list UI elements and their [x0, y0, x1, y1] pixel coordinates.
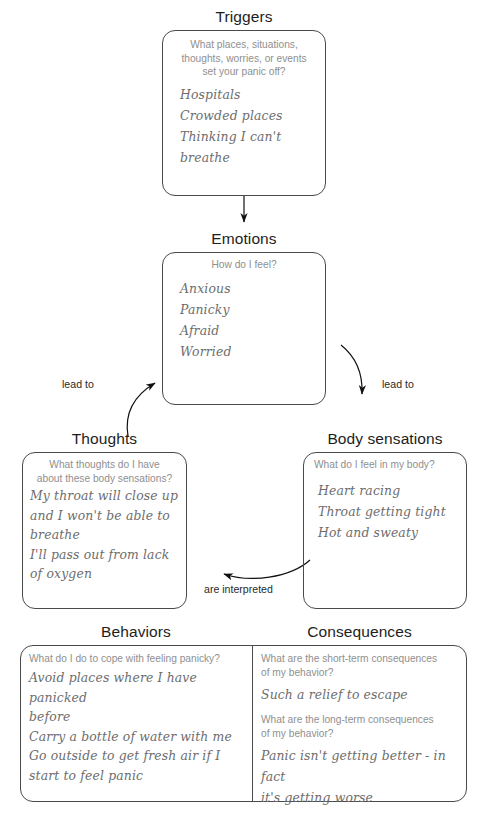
- thoughts-prompt: What thoughts do I have about these body…: [28, 458, 181, 485]
- panic-cycle-diagram: Triggers What places, situations, though…: [0, 0, 487, 821]
- triggers-answer: Hospitals Crowded places Thinking I can'…: [180, 84, 326, 168]
- consequences-prompt-short: What are the short-term consequences of …: [261, 652, 467, 679]
- body-sensations-heading: Body sensations: [303, 430, 467, 448]
- emotions-prompt: How do I feel?: [170, 258, 318, 272]
- arrow-emotions-to-body: [341, 345, 362, 394]
- triggers-prompt: What places, situations, thoughts, worri…: [170, 38, 318, 79]
- behaviors-heading: Behaviors: [20, 623, 252, 641]
- arrow-emotions-to-thoughts: [127, 383, 155, 436]
- body-sensations-answer: Heart racing Throat getting tight Hot an…: [318, 480, 468, 543]
- consequences-heading: Consequences: [252, 623, 467, 641]
- triggers-heading: Triggers: [162, 8, 326, 26]
- emotions-answer: Anxious Panicky Afraid Worried: [180, 278, 320, 362]
- emotions-heading: Emotions: [162, 230, 326, 248]
- body-sensations-prompt: What do I feel in my body?: [314, 458, 466, 472]
- arrow-body-to-thoughts: [224, 560, 310, 578]
- consequences-answer-long: Panic isn't getting better - in fact it'…: [261, 745, 469, 808]
- behaviors-answer: Avoid places where I have panicked befor…: [29, 668, 257, 785]
- consequences-answer-short: Such a relief to escape: [261, 684, 467, 705]
- thoughts-heading: Thoughts: [22, 430, 187, 448]
- label-emotions-to-thoughts: lead to: [62, 378, 94, 390]
- behaviors-prompt: What do I do to cope with feeling panick…: [29, 652, 251, 666]
- consequences-prompt-long: What are the long-term consequences of m…: [261, 713, 467, 740]
- label-emotions-to-body: lead to: [382, 378, 414, 390]
- label-body-to-thoughts: are interpreted: [204, 583, 273, 595]
- thoughts-answer: My throat will close up and I won't be a…: [30, 486, 190, 584]
